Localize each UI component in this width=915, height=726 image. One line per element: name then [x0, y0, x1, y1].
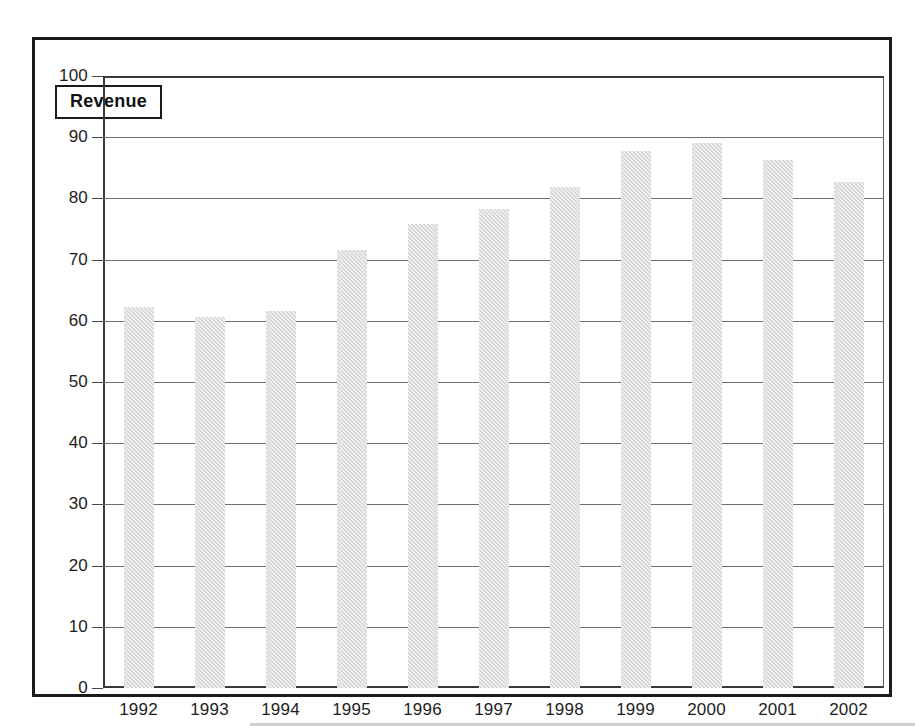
y-tick-30: [92, 504, 103, 505]
y-axis-label-40: 40: [69, 433, 88, 453]
y-tick-100: [92, 76, 103, 77]
bar-1999: [621, 151, 651, 688]
y-axis-label-90: 90: [69, 127, 88, 147]
y-axis-label-100: 100: [59, 66, 88, 86]
y-tick-40: [92, 443, 103, 444]
y-axis-label-30: 30: [69, 494, 88, 514]
x-axis-label-1992: 1992: [119, 700, 158, 720]
bar-1998: [550, 187, 580, 688]
x-axis-label-2002: 2002: [829, 700, 868, 720]
bar-2001: [763, 160, 793, 688]
y-axis-label-10: 10: [69, 617, 88, 637]
x-axis-label-1998: 1998: [545, 700, 584, 720]
y-axis-label-0: 0: [78, 678, 88, 698]
gridline-90: [103, 137, 884, 138]
x-axis-label-1996: 1996: [403, 700, 442, 720]
bar-2002: [834, 182, 864, 688]
bar-1992: [124, 307, 154, 688]
bar-1995: [337, 250, 367, 688]
y-tick-60: [92, 321, 103, 322]
bar-1994: [266, 311, 296, 688]
x-axis-label-1994: 1994: [261, 700, 300, 720]
y-axis-label-20: 20: [69, 556, 88, 576]
y-tick-70: [92, 260, 103, 261]
y-tick-20: [92, 566, 103, 567]
x-axis-label-1997: 1997: [474, 700, 513, 720]
chart-figure-frame: Revenue 1009080706050403020100 199219931…: [32, 37, 892, 697]
plot-area: 1009080706050403020100 19921993199419951…: [103, 76, 884, 688]
y-axis-label-70: 70: [69, 250, 88, 270]
bar-1997: [479, 209, 509, 688]
x-axis-label-1995: 1995: [332, 700, 371, 720]
x-axis-label-2000: 2000: [687, 700, 726, 720]
y-axis-label-80: 80: [69, 188, 88, 208]
y-tick-80: [92, 198, 103, 199]
y-tick-10: [92, 627, 103, 628]
y-tick-90: [92, 137, 103, 138]
x-axis-label-1999: 1999: [616, 700, 655, 720]
bar-1993: [195, 317, 225, 688]
bar-2000: [692, 143, 722, 688]
x-axis-label-2001: 2001: [758, 700, 797, 720]
y-axis-label-60: 60: [69, 311, 88, 331]
y-tick-50: [92, 382, 103, 383]
y-axis-label-50: 50: [69, 372, 88, 392]
gridline-100: [103, 76, 884, 78]
x-axis-label-1993: 1993: [190, 700, 229, 720]
y-tick-0: [92, 688, 103, 689]
bar-1996: [408, 224, 438, 688]
